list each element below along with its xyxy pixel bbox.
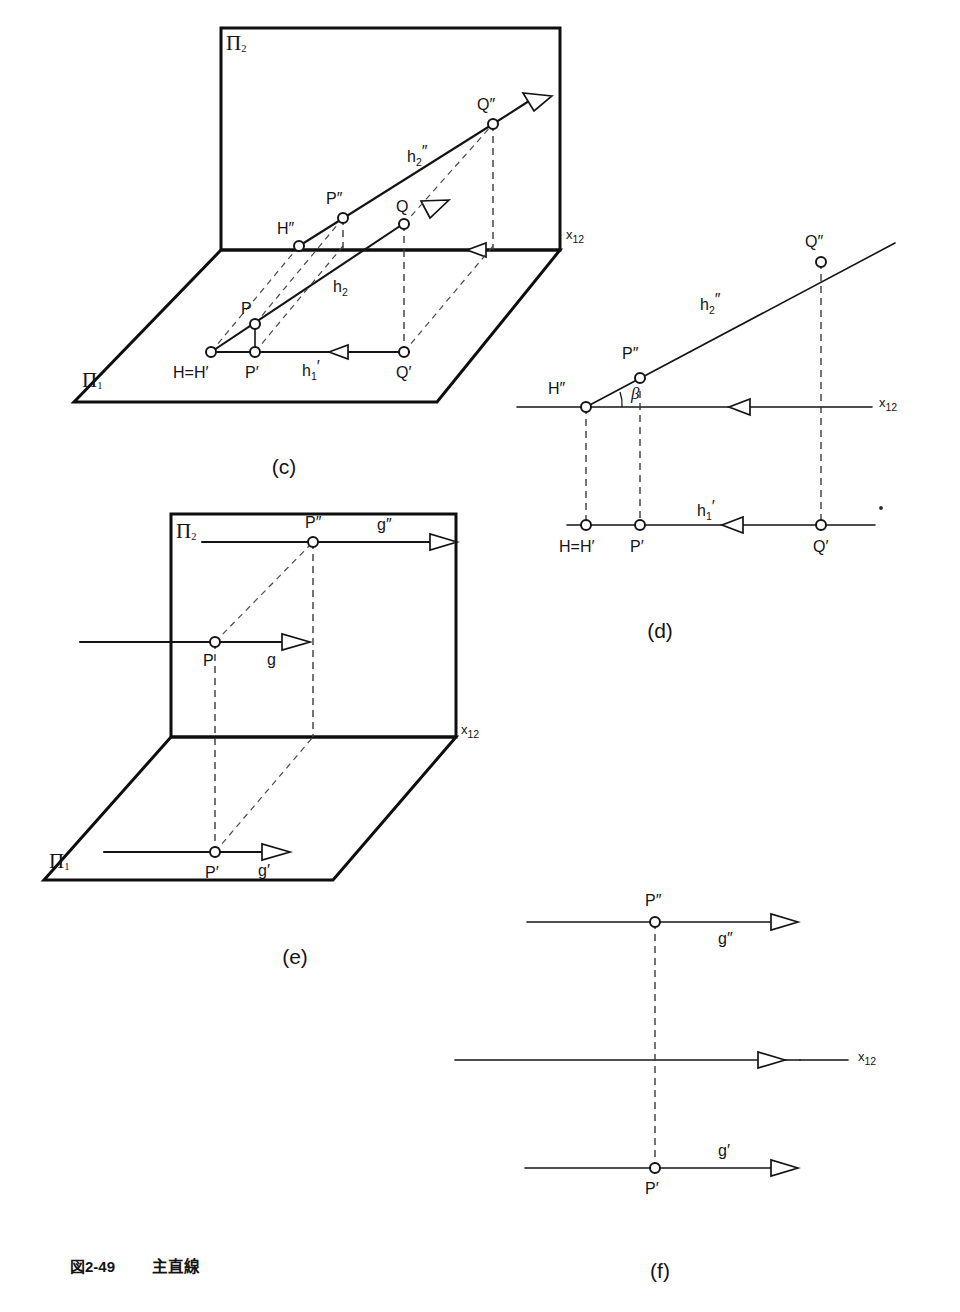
- panel-e-node-P2: [308, 537, 318, 547]
- panel-c-h2-arrowhead: [421, 200, 449, 218]
- panel-c-label-H-eq-H1: H=H′: [173, 364, 208, 381]
- figure-caption: 図2-49 主直線: [70, 1257, 200, 1275]
- panel-d-label-P2: P″: [622, 345, 639, 362]
- panel-c-x12-label: x12: [566, 227, 584, 244]
- panel-d-beta-arc: [620, 392, 622, 407]
- panel-c-label-Q1: Q′: [396, 364, 411, 381]
- panel-c-label-P: P: [241, 300, 252, 317]
- panel-d-label-H-eq-H1: H=H′: [559, 538, 594, 555]
- panel-c-pi1-label: Π1: [82, 368, 102, 392]
- panel-d-node-Q2: [816, 257, 826, 267]
- panel-c-label-Q2: Q″: [477, 96, 495, 113]
- panel-d-node-H2: [581, 402, 591, 412]
- panel-c-h1d-arrowhead: [329, 345, 348, 359]
- panel-f-label-gd: g′: [718, 1142, 730, 1159]
- panel-d-label-h2dd: h2″: [700, 291, 721, 316]
- panel-e-label-P2: P″: [305, 514, 322, 531]
- panel-c-proj-Q-to-Q2: [404, 124, 493, 224]
- panel-c-label-P1: P′: [245, 364, 259, 381]
- plane-pi1-outline: [74, 250, 560, 402]
- panel-e-label-gdd: g″: [377, 516, 392, 533]
- panel-f-gd-arrowhead: [771, 1160, 798, 1176]
- panel-f-node-P1: [650, 1163, 660, 1173]
- panel-e-node-P1: [210, 847, 220, 857]
- panel-d-x12-arrowhead: [729, 399, 750, 415]
- panel-c-label-h2dd: h2″: [407, 143, 428, 168]
- panel-d: x12 β H″ P″ Q″ H=H′ P′ Q′ h2″: [517, 233, 897, 641]
- panel-c-node-P: [250, 319, 260, 329]
- panel-c-label-h2: h2: [333, 278, 348, 298]
- panel-c-label-h1d: h1′: [302, 358, 320, 382]
- figure-root: Π2 Π1 x12: [0, 0, 960, 1312]
- panel-c-node-H2: [294, 241, 304, 251]
- panel-f-x12-arrowhead: [758, 1052, 785, 1068]
- panel-e: Π2 Π1 x12 P″ P P′ g″ g g′: [44, 514, 479, 968]
- panel-c-proj-P-to-P2: [255, 218, 343, 324]
- panel-e-label-P1: P′: [205, 864, 219, 881]
- panel-d-ink-speck: [879, 506, 883, 510]
- panel-e-x12-label: x12: [461, 722, 479, 739]
- panel-d-label-Q2: Q″: [805, 233, 823, 250]
- panel-c-x12-arrowhead: [467, 243, 486, 257]
- panel-d-label-Q1: Q′: [813, 538, 828, 555]
- plane-pi2-outline: [221, 28, 560, 250]
- panel-d-caption: (d): [647, 619, 673, 642]
- panel-e-plane-pi1-outline: [44, 737, 456, 880]
- panel-e-caption: (e): [282, 945, 308, 968]
- panel-c-node-P1: [250, 347, 260, 357]
- panel-d-node-P2: [635, 373, 645, 383]
- panel-c-node-P2: [338, 213, 348, 223]
- panel-f-label-gdd: g″: [718, 930, 733, 947]
- panel-f-caption: (f): [650, 1259, 670, 1282]
- panel-e-proj-P-to-P2: [215, 542, 313, 642]
- panel-d-line-h2-double-prime: [586, 243, 895, 407]
- panel-c-node-Q1: [399, 347, 409, 357]
- panel-f-gdd-arrowhead: [771, 914, 798, 930]
- panel-e-gd-arrowhead: [262, 844, 290, 860]
- panel-e-label-P: P: [203, 652, 214, 669]
- panel-c-label-H2: H″: [277, 220, 295, 237]
- panel-d-x12-label: x12: [879, 395, 897, 412]
- panel-d-label-h1d: h1′: [697, 498, 715, 522]
- panel-e-pi1-label: Π1: [49, 849, 69, 873]
- panel-c-vertical-plane: [221, 28, 560, 250]
- panel-c-node-Q2: [488, 119, 498, 129]
- panel-e-g-arrowhead: [282, 634, 310, 650]
- figure-canvas: Π2 Π1 x12: [0, 0, 960, 1312]
- panel-f-node-P2: [650, 917, 660, 927]
- panel-e-node-P: [210, 637, 220, 647]
- panel-d-label-P1: P′: [630, 538, 644, 555]
- panel-c-proj-P1-to-ground: [255, 246, 343, 352]
- panel-e-label-g: g: [267, 651, 276, 668]
- panel-c-label-Q: Q: [396, 198, 408, 215]
- panel-d-h1d-arrowhead: [722, 517, 743, 533]
- panel-f-x12-label: x12: [858, 1049, 876, 1066]
- panel-f-label-P1: P′: [645, 1180, 659, 1197]
- panel-c: Π2 Π1 x12: [74, 28, 584, 478]
- panel-d-node-H1: [581, 520, 591, 530]
- panel-d-node-P1: [635, 520, 645, 530]
- panel-d-beta-label: β: [630, 384, 640, 403]
- panel-e-proj-P1-to-ground: [215, 737, 313, 852]
- panel-c-horizontal-plane: [74, 250, 560, 402]
- panel-d-label-H2: H″: [548, 380, 566, 397]
- panel-c-node-Q: [399, 219, 409, 229]
- panel-c-node-H: [206, 347, 216, 357]
- figure-caption-title: 主直線: [152, 1257, 200, 1275]
- panel-d-node-Q1: [816, 520, 826, 530]
- panel-e-pi2-label: Π2: [176, 519, 196, 543]
- panel-c-proj-Q1-to-ground: [404, 246, 493, 352]
- panel-c-pi2-label: Π2: [226, 31, 246, 55]
- panel-c-label-P2: P″: [326, 190, 343, 207]
- panel-f-label-P2: P″: [645, 892, 662, 909]
- panel-c-line-h2-double-prime-ext: [493, 101, 529, 124]
- panel-e-label-gd: g′: [258, 862, 270, 879]
- panel-f: x12 P″ P′ g″ g′ (f): [455, 892, 876, 1281]
- panel-c-caption: (c): [272, 455, 297, 478]
- panel-c-line-h2-space: [211, 224, 403, 352]
- panel-e-gdd-arrowhead: [430, 534, 457, 550]
- figure-caption-number: 図2-49: [70, 1258, 115, 1275]
